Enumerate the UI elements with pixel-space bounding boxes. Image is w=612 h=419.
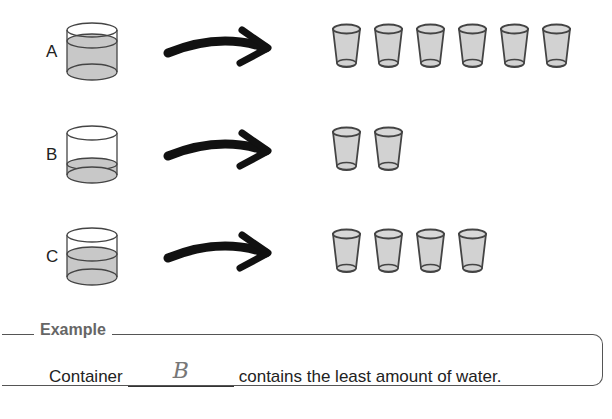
example-border-left (2, 334, 30, 335)
cup-icon (330, 228, 363, 273)
arrow-icon (150, 20, 280, 80)
arrow-icon (150, 123, 280, 183)
cup-icon (540, 23, 573, 68)
example-title: Example (34, 321, 112, 339)
cup-icon (372, 23, 405, 68)
container-b-icon (64, 120, 120, 188)
sentence-suffix: contains the least amount of water. (239, 367, 502, 387)
cup-icon (414, 228, 447, 273)
container-label-c: C (46, 247, 58, 267)
cup-icon (330, 23, 363, 68)
cup-icon (456, 228, 489, 273)
cup-icon (372, 126, 405, 171)
cup-icon (330, 126, 363, 171)
row-a: A (0, 17, 612, 97)
cup-icon (414, 23, 447, 68)
cups-group-a (330, 23, 573, 68)
cup-icon (372, 228, 405, 273)
sentence-prefix: Container (49, 367, 123, 387)
arrow-icon (150, 225, 280, 285)
row-b: B (0, 120, 612, 200)
answer-blank[interactable]: B (128, 366, 234, 387)
container-a-icon (64, 17, 120, 85)
container-label-b: B (46, 145, 57, 165)
row-c: C (0, 222, 612, 302)
container-label-a: A (46, 42, 57, 62)
answer-text: B (128, 358, 234, 383)
cups-group-b (330, 126, 405, 171)
cup-icon (456, 23, 489, 68)
cup-icon (498, 23, 531, 68)
container-c-icon (64, 222, 120, 290)
cups-group-c (330, 228, 489, 273)
example-sentence: Container B contains the least amount of… (49, 366, 501, 387)
